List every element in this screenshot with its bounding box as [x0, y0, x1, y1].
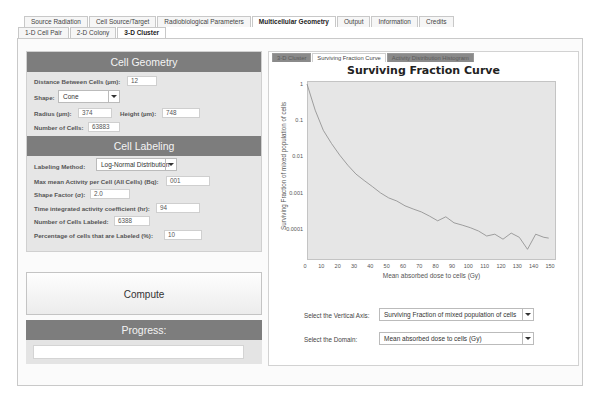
x-tick: 140 [526, 263, 542, 269]
domain-select[interactable]: Mean absorbed dose to cells (Gy) [379, 332, 534, 345]
tab-3d-cluster-view[interactable]: 3-D Cluster [272, 53, 311, 62]
compute-button[interactable]: Compute [26, 272, 262, 315]
x-tick: 30 [346, 263, 362, 269]
tab-cell-source-target[interactable]: Cell Source/Target [89, 16, 156, 27]
time-coeff-field[interactable]: 94 [156, 203, 200, 213]
radius-label: Radius (µm): [34, 110, 72, 117]
vertical-axis-label: Select the Vertical Axis: [304, 312, 369, 319]
shape-factor-label: Shape Factor (σ): [34, 191, 85, 198]
tab-activity-distribution-histogram[interactable]: Activity Distribution Histogram [387, 53, 474, 62]
x-tick: 100 [460, 263, 476, 269]
max-activity-field[interactable]: 001 [166, 176, 210, 186]
distance-label: Distance Between Cells (µm): [34, 78, 120, 85]
x-tick: 40 [362, 263, 378, 269]
tab-radiobiological-parameters[interactable]: Radiobiological Parameters [157, 16, 251, 27]
time-coeff-label: Time integrated activity coefficient (hr… [34, 205, 150, 212]
x-tick: 50 [379, 263, 395, 269]
y-tick: 1 [283, 81, 303, 87]
parameters-panel: Cell Geometry Distance Between Cells (µm… [26, 51, 262, 252]
shape-label: Shape: [34, 94, 55, 101]
labeling-method-value: Log-Normal Distribution [101, 161, 169, 168]
y-tick: 0.001 [283, 190, 303, 196]
chart-title: Surviving Fraction Curve [268, 64, 579, 77]
x-tick: 60 [395, 263, 411, 269]
chart-tab-bar: 3-D Cluster Surviving Fraction Curve Act… [272, 53, 475, 62]
radius-field[interactable]: 374 [78, 108, 112, 118]
tab-information[interactable]: Information [371, 16, 418, 27]
x-tick: 130 [509, 263, 525, 269]
domain-label: Select the Domain: [304, 336, 357, 343]
x-tick: 10 [313, 263, 329, 269]
tab-2d-colony[interactable]: 2-D Colony [70, 27, 117, 38]
x-tick: 80 [428, 263, 444, 269]
plot-area [307, 81, 556, 260]
progress-panel: Progress: [26, 320, 262, 364]
y-tick: 0.01 [283, 153, 303, 159]
x-tick: 20 [330, 263, 346, 269]
y-tick: 0.1 [283, 117, 303, 123]
chevron-down-icon[interactable] [108, 91, 119, 102]
x-tick: 120 [493, 263, 509, 269]
tab-credits[interactable]: Credits [419, 16, 454, 27]
x-tick: 70 [411, 263, 427, 269]
main-tab-bar: Source Radiation Cell Source/Target Radi… [24, 16, 455, 27]
geometry-sub-tab-bar: 1-D Cell Pair 2-D Colony 3-D Cluster [18, 27, 167, 38]
progress-header: Progress: [26, 320, 262, 340]
domain-value: Mean absorbed dose to cells (Gy) [384, 335, 482, 342]
tab-surviving-fraction-curve[interactable]: Surviving Fraction Curve [312, 53, 385, 62]
progress-bar [33, 345, 244, 359]
tab-1d-cell-pair[interactable]: 1-D Cell Pair [18, 27, 69, 38]
num-labeled-label: Number of Cells Labeled: [34, 218, 109, 225]
shape-select[interactable]: Cone [58, 90, 120, 103]
labeling-method-select[interactable]: Log-Normal Distribution [96, 158, 177, 171]
chevron-down-icon[interactable] [522, 309, 533, 320]
cell-labeling-header: Cell Labeling [27, 136, 261, 156]
num-cells-label: Number of Cells: [34, 124, 84, 131]
y-tick: 0.0001 [283, 226, 303, 232]
pct-labeled-field[interactable]: 10 [164, 230, 202, 240]
chevron-down-icon[interactable] [165, 159, 176, 170]
tab-output[interactable]: Output [337, 16, 371, 27]
distance-field[interactable]: 12 [127, 76, 157, 86]
vertical-axis-value: Surviving Fraction of mixed population o… [384, 311, 516, 318]
shape-factor-field[interactable]: 2.0 [90, 189, 130, 199]
x-tick: 0 [297, 263, 313, 269]
x-axis-label: Mean absorbed dose to cells (Gy) [307, 272, 556, 279]
x-tick: 90 [444, 263, 460, 269]
tab-source-radiation[interactable]: Source Radiation [24, 16, 88, 27]
num-labeled-field: 6388 [114, 216, 150, 226]
x-tick: 150 [542, 263, 558, 269]
max-activity-label: Max mean Activity per Cell (All Cells) (… [34, 178, 159, 185]
tab-3d-cluster[interactable]: 3-D Cluster [117, 27, 166, 38]
tab-multicellular-geometry[interactable]: Multicellular Geometry [252, 16, 336, 27]
height-label: Height (µm): [120, 110, 156, 117]
num-cells-field: 63883 [88, 122, 120, 132]
y-axis-label: Surviving Fraction of mixed population o… [280, 86, 287, 246]
pct-labeled-label: Percentage of cells that are Labeled (%)… [34, 232, 153, 239]
chevron-down-icon[interactable] [522, 333, 533, 344]
height-field[interactable]: 748 [162, 108, 200, 118]
shape-select-value: Cone [63, 93, 79, 100]
vertical-axis-select[interactable]: Surviving Fraction of mixed population o… [379, 308, 534, 321]
labeling-method-label: Labeling Method: [34, 163, 85, 170]
cell-geometry-header: Cell Geometry [27, 52, 261, 72]
x-tick: 110 [477, 263, 493, 269]
